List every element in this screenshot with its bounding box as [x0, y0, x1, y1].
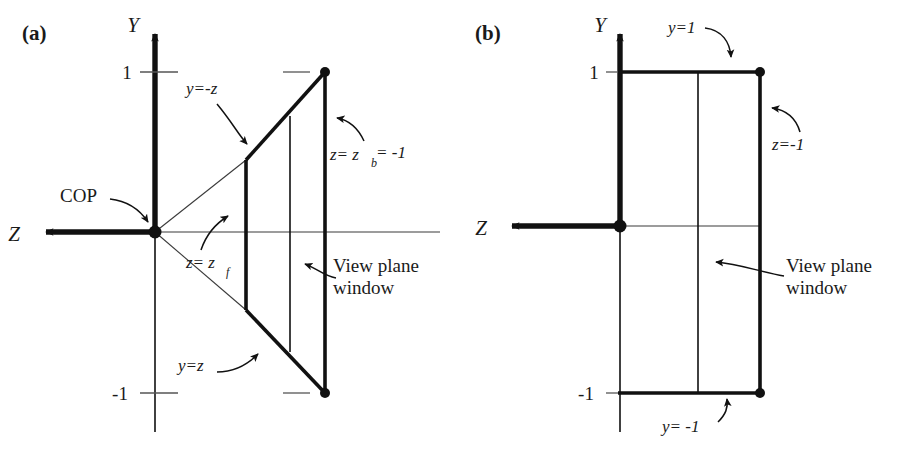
annotation-z-equals-zb-tail-a: = -1: [376, 143, 406, 162]
leader-view-plane-window-a: [305, 264, 336, 278]
leader-z-equals-zb-a: [337, 118, 364, 141]
y-axis-label-b: Y: [594, 13, 608, 37]
leader-cop-a: [110, 199, 148, 222]
annotation-view-plane-window-a: View plane window: [333, 255, 419, 298]
corner-dot-top-right-b: [755, 67, 765, 77]
tick-label-positive-one-b: 1: [589, 62, 599, 83]
leader-y-equals-z-a: [217, 354, 258, 372]
panel-a-tag: (a): [22, 21, 47, 45]
tick-label-negative-one-b: -1: [578, 383, 594, 404]
plane-y-equals-z-a: [246, 310, 325, 393]
leader-y-equals-minus-1-b: [718, 399, 727, 422]
annotation-view-plane-window-line2-b: window: [786, 277, 848, 298]
ray-top-thin-a: [155, 160, 246, 232]
annotation-y-equals-minus-z-a: y=-z: [184, 79, 218, 98]
annotation-view-plane-window-line2-a: window: [333, 277, 395, 298]
z-axis-label-a: Z: [8, 222, 20, 246]
annotation-z-equals-zf-a: z= z f: [185, 253, 231, 279]
corner-dot-top-right-a: [320, 67, 330, 77]
plane-y-equals-minus-z-a: [246, 72, 325, 160]
origin-dot-b: [614, 220, 627, 233]
annotation-y-equals-minus-1-b: y= -1: [660, 417, 699, 436]
annotation-z-equals-zf-subscript-a: f: [226, 265, 231, 279]
panel-b-tag: (b): [475, 21, 501, 45]
annotation-y-equals-z-a: y=z: [176, 356, 204, 375]
annotation-z-equals-zb-main-a: z= z: [329, 145, 359, 164]
annotation-view-plane-window-line1-a: View plane: [333, 255, 419, 276]
tick-label-negative-one-a: -1: [112, 383, 128, 404]
leader-view-plane-window-b: [716, 262, 784, 276]
diagram-canvas: (a) Y Z 1 -1: [0, 0, 906, 456]
annotation-view-plane-window-line1-b: View plane: [786, 255, 872, 276]
panel-a: (a) Y Z 1 -1: [8, 13, 440, 432]
leader-z-equals-minus-1-b: [772, 108, 800, 132]
corner-dot-bottom-right-b: [755, 388, 765, 398]
z-axis-label-b: Z: [475, 216, 487, 240]
corner-dot-bottom-right-a: [320, 388, 330, 398]
leader-y-equals-1-b: [705, 28, 731, 57]
tick-label-positive-one-a: 1: [122, 62, 132, 83]
annotation-cop-a: COP: [60, 185, 97, 206]
annotation-z-equals-zf-main-a: z= z: [185, 253, 215, 272]
leader-y-equals-minus-z-a: [217, 104, 247, 144]
annotation-y-equals-1-b: y=1: [666, 18, 696, 37]
cop-dot-a: [149, 226, 162, 239]
annotation-z-equals-zb-a: z= z b = -1: [329, 143, 406, 170]
y-axis-label-a: Y: [127, 13, 141, 37]
panel-b: (b) Y Z 1 -1: [475, 13, 872, 436]
figure-root: (a) Y Z 1 -1: [0, 0, 906, 456]
annotation-view-plane-window-b: View plane window: [786, 255, 872, 298]
annotation-z-equals-minus-1-b: z=-1: [771, 135, 804, 154]
leader-z-equals-zf-a: [201, 216, 228, 250]
